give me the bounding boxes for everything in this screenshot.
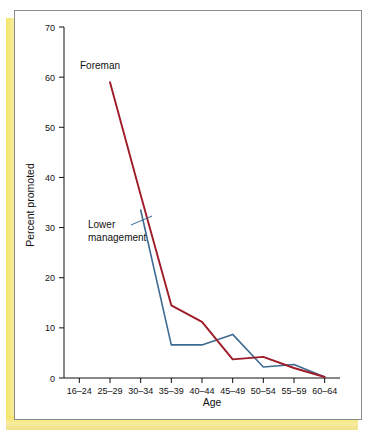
figure-root: 010203040506070 16–2425–2930–3435–3940–4… xyxy=(0,0,376,441)
chart-panel xyxy=(14,10,362,420)
